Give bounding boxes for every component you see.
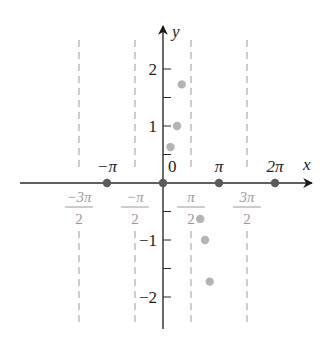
plot-point	[173, 122, 181, 130]
axis-zero-point	[103, 179, 111, 187]
asymptote-label-numerator: π	[187, 189, 195, 205]
x-axis-label: x	[302, 155, 311, 174]
origin-label: 0	[168, 157, 177, 176]
asymptote-label-numerator: 3π	[238, 189, 255, 205]
plot-point	[166, 143, 174, 151]
plot-point	[206, 277, 214, 285]
axis-zero-point	[159, 179, 167, 187]
plot-point	[178, 80, 186, 88]
x-tick-label: π	[215, 157, 224, 176]
asymptote-label-numerator: −3π	[66, 189, 92, 205]
x-tick-label: 2π	[266, 157, 284, 176]
x-tick-label: −π	[97, 157, 117, 176]
plot-canvas: x y 0 −3π2−π2π23π221−1−2−ππ2π	[0, 0, 328, 347]
asymptote-label-denominator: 2	[243, 211, 251, 227]
axes	[20, 26, 312, 329]
axis-zero-point	[215, 179, 223, 187]
axis-labels: x y 0 −3π2−π2π23π221−1−2−ππ2π	[65, 22, 311, 307]
asymptote-label-denominator: 2	[131, 211, 139, 227]
asymptote-label: −3π2	[65, 189, 93, 227]
asymptote-label: −π2	[121, 189, 149, 227]
plot-point	[201, 236, 209, 244]
asymptote-label-denominator: 2	[187, 211, 195, 227]
y-axis-label: y	[170, 22, 180, 41]
asymptote-label-denominator: 2	[75, 211, 83, 227]
asymptote-label: 3π2	[233, 189, 261, 227]
asymptote-label-numerator: −π	[126, 189, 144, 205]
axis-zero-point	[271, 179, 279, 187]
y-tick-label: −1	[139, 231, 157, 250]
y-tick-label: 1	[149, 117, 158, 136]
y-tick-label: −2	[139, 288, 157, 307]
tangent-graph-figure: x y 0 −3π2−π2π23π221−1−2−ππ2π	[0, 0, 328, 347]
y-tick-label: 2	[149, 60, 158, 79]
plot-point	[196, 215, 204, 223]
